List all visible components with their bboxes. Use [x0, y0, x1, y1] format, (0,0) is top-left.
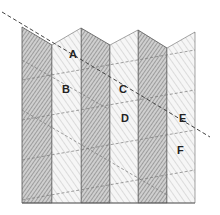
dark-band-2: [81, 28, 110, 203]
folded-panels-diagram: A B C D E F: [0, 0, 220, 215]
label-c: C: [119, 83, 127, 95]
dark-band-1: [22, 27, 52, 203]
label-a: A: [69, 48, 77, 60]
dark-bands: [22, 27, 167, 203]
label-d: D: [121, 112, 129, 124]
label-b: B: [62, 83, 70, 95]
label-e: E: [179, 112, 186, 124]
label-f: F: [177, 144, 184, 156]
